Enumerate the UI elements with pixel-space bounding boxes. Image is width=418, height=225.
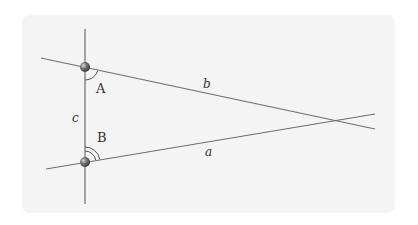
label-side-c: c [72,111,79,125]
label-point-a: A [95,81,106,96]
label-side-b: b [203,77,211,91]
line-a [46,114,375,169]
point-a-marker [80,62,90,72]
label-point-b: B [97,130,107,145]
line-b [41,58,375,129]
point-b-marker [80,157,90,167]
label-side-a: a [205,145,212,159]
triangle-diagram: A B b a c [0,0,418,225]
angle-arc-a [85,71,98,80]
